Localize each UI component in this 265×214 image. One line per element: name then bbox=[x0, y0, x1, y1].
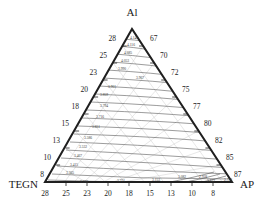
right-axis-tick-5: 80 bbox=[204, 119, 212, 128]
left-axis-tick-8: 8 bbox=[40, 170, 44, 179]
right-axis-tick-6: 82 bbox=[215, 136, 223, 145]
contour-label: 3.651 bbox=[92, 125, 100, 129]
left-axis-tick-7: 10 bbox=[44, 153, 52, 162]
contour-label: 3.990 bbox=[118, 67, 126, 71]
corner-label-top: Al bbox=[127, 6, 138, 18]
bottom-axis-tick-6: 13 bbox=[167, 189, 175, 198]
contour-label: 3.901 bbox=[108, 85, 116, 89]
corner-label-bottom-right: AP bbox=[240, 178, 254, 190]
left-axis-tick-5: 15 bbox=[62, 119, 70, 128]
ternary-diagram: Al TEGN AP 28 25 23 20 18 15 13 10 8 67 … bbox=[0, 0, 265, 214]
left-axis-tick-2: 23 bbox=[90, 68, 98, 77]
left-axis-tick-4: 18 bbox=[72, 102, 80, 111]
contour-label: 3.859 bbox=[100, 93, 108, 97]
right-axis-tick-8: 87 bbox=[234, 170, 242, 179]
contour-label: 3.794 bbox=[100, 104, 108, 108]
bottom-axis-tick-1: 25 bbox=[62, 189, 70, 198]
contour-label: 3.082 bbox=[178, 175, 186, 179]
contour-label: 2.842 bbox=[207, 179, 215, 183]
contour-label: 4.116 bbox=[127, 43, 135, 47]
left-axis-tick-1: 25 bbox=[100, 51, 108, 60]
bottom-axis-tick-8: 8 bbox=[211, 189, 215, 198]
contour-label: 3.415 bbox=[70, 163, 78, 167]
contour-label: 3.288 bbox=[80, 180, 88, 184]
contour-label: 4.085 bbox=[124, 51, 132, 55]
contour-label: 3.967 bbox=[136, 76, 144, 80]
corner-label-bottom-left: TEGN bbox=[9, 178, 38, 190]
contour-label: 3.532 bbox=[79, 145, 87, 149]
left-axis-tick-0: 28 bbox=[109, 34, 117, 43]
contour-label: 4.053 bbox=[121, 59, 129, 63]
contour-label: 3.153 bbox=[152, 178, 160, 182]
right-axis-tick-1: 70 bbox=[160, 51, 168, 60]
contour-label: 3.365 bbox=[66, 171, 74, 175]
bottom-axis-tick-3: 20 bbox=[104, 189, 112, 198]
right-axis-tick-3: 75 bbox=[182, 85, 190, 94]
left-axis-tick-3: 20 bbox=[81, 85, 89, 94]
right-axis-tick-4: 77 bbox=[193, 102, 201, 111]
right-axis-tick-0: 67 bbox=[150, 34, 158, 43]
contour-label: 3.586 bbox=[84, 136, 92, 140]
bottom-axis-tick-5: 15 bbox=[146, 189, 154, 198]
left-axis-tick-6: 13 bbox=[53, 136, 61, 145]
ternary-diagram-container: Al TEGN AP 28 25 23 20 18 15 13 10 8 67 … bbox=[0, 0, 265, 214]
right-axis-tick-2: 72 bbox=[171, 68, 179, 77]
contour-label: 4.148 bbox=[130, 36, 138, 40]
bottom-axis-tick-7: 10 bbox=[188, 189, 196, 198]
right-axis-tick-7: 85 bbox=[226, 153, 234, 162]
bottom-axis-tick-2: 23 bbox=[83, 189, 91, 198]
contour-label: 3.716 bbox=[96, 115, 104, 119]
bottom-axis-tick-4: 18 bbox=[125, 189, 133, 198]
contour-label: 3.467 bbox=[74, 154, 82, 158]
contour-label: 2.728 bbox=[224, 178, 232, 182]
contour-label: 3.221 bbox=[117, 179, 125, 183]
bottom-axis-tick-0: 28 bbox=[41, 189, 49, 198]
